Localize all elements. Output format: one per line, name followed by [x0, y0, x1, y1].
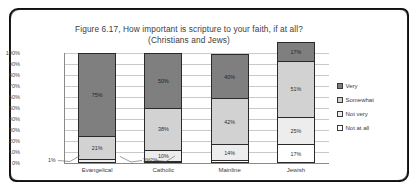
legend-item-notvery[interactable]: Not very [337, 107, 415, 121]
bar-segment-jewish-very[interactable]: 17% [277, 42, 315, 61]
plot-area: 21%75%10%38%50%14%42%40%17%25%51%17% [64, 53, 329, 163]
bar-segment-evangelical-notvery[interactable] [78, 159, 116, 162]
bar-segment-catholic-notvery[interactable]: 10% [144, 150, 182, 161]
y-tick-20: 20% [9, 138, 20, 144]
y-axis-line [64, 53, 65, 163]
gridline-0 [64, 163, 329, 164]
legend-swatch-notvery [337, 111, 343, 117]
bar-segment-evangelical-somewhat[interactable]: 21% [78, 136, 116, 159]
bar-segment-jewish-somewhat[interactable]: 51% [277, 61, 315, 117]
legend-label-notvery: Not very [346, 111, 368, 117]
bar-value-label: 38% [158, 126, 169, 132]
y-tick-70: 70% [9, 83, 20, 89]
legend-item-somewhat[interactable]: Somewhat [337, 93, 415, 107]
bar-segment-catholic-somewhat[interactable]: 38% [144, 108, 182, 150]
figure-border: Figure 6.17, How important is scripture … [9, 8, 409, 182]
bar-value-label: 10% [158, 153, 169, 159]
legend-swatch-notatall [337, 125, 343, 131]
bar-segment-mainline-somewhat[interactable]: 42% [211, 98, 249, 144]
bar-value-label: 14% [224, 150, 235, 156]
y-tick-0: 0% [12, 160, 20, 166]
y-tick-60: 60% [9, 94, 20, 100]
y-tick-80: 80% [9, 72, 20, 78]
bar-value-label: 21% [92, 145, 103, 151]
bar-value-label: 75% [92, 92, 103, 98]
y-tick-10: 10% [9, 149, 20, 155]
x-tick-mainline: Mainline [200, 167, 260, 173]
legend-item-notatall[interactable]: Not at all [337, 121, 415, 135]
legend-label-very: Very [346, 83, 358, 89]
legend-swatch-very [337, 83, 343, 89]
bar-group-jewish[interactable]: 17%25%51%17% [277, 53, 315, 163]
legend-item-very[interactable]: Very [337, 79, 415, 93]
bar-segment-catholic-very[interactable]: 50% [144, 53, 182, 108]
y-tick-100: 100% [6, 50, 20, 56]
x-axis-tick-labels: EvangelicalCatholicMainlineJewish [64, 167, 329, 179]
x-tick-evangelical: Evangelical [67, 167, 127, 173]
bar-group-evangelical[interactable]: 21%75% [78, 53, 116, 163]
bar-value-label: 17% [290, 49, 301, 55]
x-tick-catholic: Catholic [133, 167, 193, 173]
bar-segment-catholic-notatall[interactable] [144, 161, 182, 163]
bar-segment-mainline-notatall[interactable] [211, 160, 249, 163]
bar-segment-jewish-notvery[interactable]: 25% [277, 117, 315, 145]
legend-swatch-somewhat [337, 97, 343, 103]
bar-segment-evangelical-very[interactable]: 75% [78, 53, 116, 136]
chart-legend: VerySomewhatNot veryNot at all [337, 79, 415, 135]
bar-segment-mainline-very[interactable]: 40% [211, 54, 249, 98]
bar-value-label: 17% [290, 151, 301, 157]
bar-group-mainline[interactable]: 14%42%40% [211, 53, 249, 163]
chart-title: Figure 6.17, How important is scripture … [24, 24, 354, 35]
y-tick-90: 90% [9, 61, 20, 67]
y-tick-50: 50% [9, 105, 20, 111]
legend-label-somewhat: Somewhat [346, 97, 374, 103]
bar-value-label: 42% [224, 119, 235, 125]
bar-value-label: 25% [290, 128, 301, 134]
chart-container: Figure 6.17, How important is scripture … [24, 22, 416, 188]
y-axis-tick-labels: 0%10%20%30%40%50%60%70%80%90%100% [0, 53, 22, 163]
legend-label-notatall: Not at all [346, 125, 370, 131]
bar-value-label: 51% [290, 86, 301, 92]
y-tick-30: 30% [9, 127, 20, 133]
y-tick-40: 40% [9, 116, 20, 122]
bar-segment-mainline-notvery[interactable]: 14% [211, 144, 249, 159]
bar-value-label: 40% [224, 74, 235, 80]
callout-label-evangelical-notatall: 1% [48, 157, 56, 163]
bar-segment-jewish-notatall[interactable]: 17% [277, 144, 315, 163]
bar-group-catholic[interactable]: 10%38%50% [144, 53, 182, 163]
bar-value-label: 50% [158, 78, 169, 84]
x-tick-jewish: Jewish [266, 167, 326, 173]
